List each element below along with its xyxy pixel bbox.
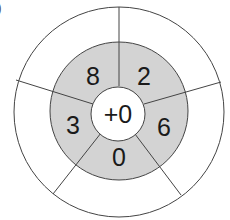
center-label: +0 <box>104 100 133 128</box>
inner-segment-bottom: 0 <box>112 143 126 171</box>
inner-segment-right: 6 <box>157 113 171 141</box>
inner-segment-top-left: 8 <box>86 62 100 90</box>
inner-segment-top-right: 2 <box>137 62 151 90</box>
inner-segment-left: 3 <box>66 111 80 139</box>
addition-wheel-diagram: ) +0 2 6 0 3 8 <box>0 0 230 220</box>
corner-label: ) <box>0 0 2 16</box>
